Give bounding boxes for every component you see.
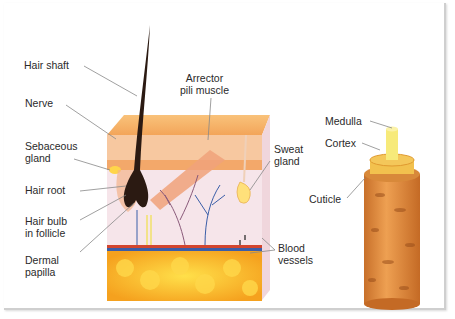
- label-arrector-pili: Arrector pili muscle: [180, 72, 229, 96]
- label-sweat-gland: Sweat gland: [274, 143, 303, 167]
- hair-strand-model: [364, 127, 420, 311]
- label-blood-vessels: Blood vessels: [278, 242, 313, 266]
- label-dermal-papilla: Dermal papilla: [25, 254, 59, 278]
- label-cortex: Cortex: [325, 137, 356, 149]
- label-hair-root: Hair root: [25, 184, 65, 196]
- label-cuticle: Cuticle: [309, 193, 341, 205]
- label-sebaceous-gland: Sebaceous gland: [25, 140, 78, 164]
- label-hair-shaft: Hair shaft: [24, 59, 69, 71]
- label-medulla: Medulla: [325, 115, 362, 127]
- label-nerve: Nerve: [25, 97, 53, 109]
- label-hair-bulb: Hair bulb in follicle: [25, 215, 67, 239]
